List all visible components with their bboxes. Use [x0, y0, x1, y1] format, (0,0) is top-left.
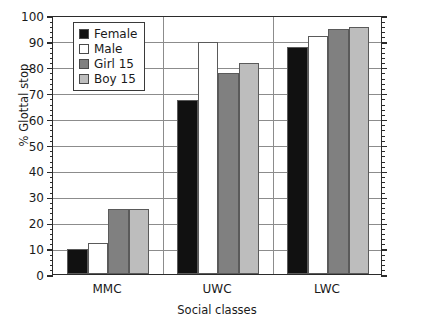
y-tick-minor [50, 27, 54, 28]
bar-lwc-girl-15 [328, 29, 349, 274]
legend-swatch-icon [79, 44, 89, 54]
y-tick-minor [50, 244, 54, 245]
y-tick-minor [50, 63, 54, 64]
y-tick-label: 70 [29, 88, 44, 102]
plot-area: 0102030405060708090100 FemaleMaleGirl 15… [52, 16, 382, 275]
y-tick-major-right [381, 224, 387, 225]
y-tick-minor [50, 234, 54, 235]
legend-item-male: Male [79, 41, 137, 56]
y-tick-minor [50, 136, 54, 137]
y-tick-major [47, 275, 53, 276]
y-tick-minor-right [381, 219, 385, 220]
y-tick-minor-right [381, 167, 385, 168]
y-tick-minor-right [381, 73, 385, 74]
legend-swatch-icon [79, 29, 89, 39]
y-tick-minor-right [381, 260, 385, 261]
legend-item-boy-15: Boy 15 [79, 71, 137, 86]
y-tick-minor [50, 73, 54, 74]
y-tick-minor [50, 105, 54, 106]
y-tick-minor [50, 79, 54, 80]
legend-item-female: Female [79, 26, 137, 41]
y-tick-minor [50, 265, 54, 266]
y-tick-minor-right [381, 229, 385, 230]
group-separator [273, 17, 274, 274]
y-tick-label: 20 [29, 217, 44, 231]
y-tick-minor-right [381, 141, 385, 142]
y-tick-minor-right [381, 115, 385, 116]
y-tick-major-right [381, 16, 387, 17]
y-tick-minor [50, 89, 54, 90]
y-tick-minor [50, 115, 54, 116]
y-tick-minor-right [381, 53, 385, 54]
y-tick-label: 100 [21, 10, 44, 24]
y-tick-label: 50 [29, 140, 44, 154]
y-tick-major-right [381, 172, 387, 173]
y-tick-minor [50, 110, 54, 111]
y-tick-minor [50, 239, 54, 240]
y-tick-minor-right [381, 22, 385, 23]
bar-lwc-male [308, 36, 329, 274]
y-tick-minor [50, 130, 54, 131]
x-tick-label-uwc: UWC [202, 282, 231, 296]
y-tick-major-right [381, 198, 387, 199]
legend-item-girl-15: Girl 15 [79, 56, 137, 71]
y-tick-minor-right [381, 162, 385, 163]
bar-mmc-boy-15 [129, 209, 150, 274]
y-tick-major [47, 146, 53, 147]
y-tick-major [47, 16, 53, 17]
x-tick-label-mmc: MMC [92, 282, 121, 296]
y-tick-minor [50, 219, 54, 220]
y-tick-minor [50, 99, 54, 100]
y-tick-major [47, 172, 53, 173]
y-tick-major-right [381, 146, 387, 147]
y-tick-minor-right [381, 27, 385, 28]
y-tick-minor-right [381, 255, 385, 256]
y-tick-minor-right [381, 182, 385, 183]
y-tick-label: 0 [36, 269, 44, 283]
y-tick-minor [50, 229, 54, 230]
y-tick-minor [50, 260, 54, 261]
y-tick-minor [50, 156, 54, 157]
y-tick-label: 10 [29, 243, 44, 257]
y-tick-minor [50, 182, 54, 183]
y-tick-minor-right [381, 265, 385, 266]
x-tick-label-lwc: LWC [314, 282, 340, 296]
y-tick-minor [50, 32, 54, 33]
bar-lwc-boy-15 [349, 27, 370, 274]
y-tick-label: 60 [29, 114, 44, 128]
legend-swatch-icon [79, 74, 89, 84]
bar-mmc-male [88, 243, 109, 274]
y-tick-minor [50, 270, 54, 271]
y-tick-minor [50, 187, 54, 188]
y-tick-minor [50, 167, 54, 168]
y-tick-minor-right [381, 270, 385, 271]
y-tick-minor-right [381, 79, 385, 80]
legend-label: Female [94, 28, 137, 40]
y-tick-minor [50, 141, 54, 142]
y-tick-minor [50, 213, 54, 214]
y-tick-minor [50, 151, 54, 152]
y-tick-major [47, 42, 53, 43]
y-tick-minor-right [381, 110, 385, 111]
bar-uwc-boy-15 [239, 63, 260, 274]
y-tick-minor-right [381, 244, 385, 245]
y-tick-minor [50, 37, 54, 38]
legend-label: Male [94, 43, 122, 55]
bar-uwc-male [198, 42, 219, 274]
y-tick-major-right [381, 68, 387, 69]
group-separator [163, 17, 164, 274]
y-tick-minor-right [381, 208, 385, 209]
y-tick-label: 80 [29, 62, 44, 76]
y-tick-minor-right [381, 99, 385, 100]
y-tick-minor [50, 193, 54, 194]
y-tick-minor [50, 203, 54, 204]
legend-label: Girl 15 [94, 58, 134, 70]
y-tick-minor [50, 255, 54, 256]
chart-legend: FemaleMaleGirl 15Boy 15 [73, 22, 145, 91]
x-axis-title: Social classes [52, 303, 382, 317]
y-tick-major [47, 94, 53, 95]
y-tick-major [47, 249, 53, 250]
y-tick-major-right [381, 275, 387, 276]
bar-lwc-female [287, 47, 308, 274]
y-tick-minor-right [381, 125, 385, 126]
